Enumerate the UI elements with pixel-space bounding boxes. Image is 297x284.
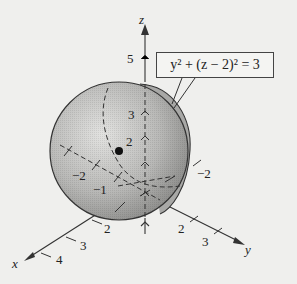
z-axis-label: z: [139, 13, 144, 26]
x-tick-4: 4: [56, 253, 63, 266]
x-tick-neg1: −1: [93, 183, 107, 196]
diagram-canvas: [0, 0, 297, 284]
center-z-label: 2: [126, 135, 133, 148]
z-tick-5: 5: [127, 52, 134, 65]
equation-label: y² + (z − 2)² = 3: [156, 52, 274, 78]
y-tick-neg2: −2: [197, 167, 211, 180]
z-tick-3: 3: [128, 108, 135, 121]
x-tick-2: 2: [104, 222, 111, 235]
x-tick-neg2: −2: [72, 169, 86, 182]
y-tick-2: 2: [178, 222, 185, 235]
x-axis-label: x: [12, 257, 18, 270]
sphere-diagram: y² + (z − 2)² = 3 z 5 3 2 −2 −1 2 3 4 x …: [0, 0, 297, 284]
y-axis-label: y: [245, 243, 251, 256]
x-tick-3: 3: [80, 239, 87, 252]
center-point: [115, 147, 123, 155]
y-tick-3: 3: [202, 235, 209, 248]
